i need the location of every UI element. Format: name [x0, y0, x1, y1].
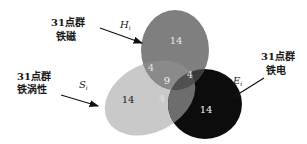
set-s-arrow [61, 95, 98, 106]
set-h-label-line2: 铁磁 [56, 30, 76, 42]
region-s-e: 4 [159, 93, 165, 104]
set-s-symbol: Si [79, 79, 88, 91]
region-s-only: 14 [122, 94, 135, 105]
region-h-s: 4 [148, 62, 154, 73]
region-e-only: 14 [200, 104, 213, 115]
set-h-arrow [100, 28, 142, 43]
set-e-label-line2: 铁电 [266, 64, 286, 76]
set-s-label-line1: 31点群 [17, 70, 51, 82]
set-h-label-line1: 31点群 [51, 16, 85, 28]
set-e-symbol: Ei [232, 75, 242, 87]
set-h-symbol: Hi [119, 19, 131, 31]
region-h-e: 4 [187, 69, 193, 80]
set-e-label-line1: 31点群 [261, 50, 295, 62]
venn-diagram: 14 14 14 4 4 4 9 31点群 铁磁 Hi 31点群 铁涡性 Si … [0, 0, 307, 144]
region-h-only: 14 [170, 35, 183, 46]
set-s-label-line2: 铁涡性 [17, 83, 47, 95]
region-h-s-e: 9 [164, 75, 170, 86]
